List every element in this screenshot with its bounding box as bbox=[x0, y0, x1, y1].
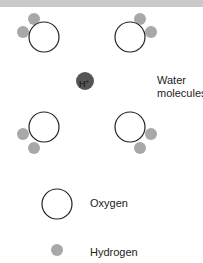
ion-label: H+ bbox=[79, 75, 89, 91]
water-molecules-label: Water molecules bbox=[157, 74, 203, 100]
hydrogen-atom bbox=[17, 128, 29, 140]
hydrogen-atom bbox=[145, 128, 157, 140]
water-molecule-bottom-right bbox=[115, 112, 157, 154]
hydrogen-atom bbox=[28, 142, 40, 154]
legend-hydrogen-label: Hydrogen bbox=[90, 246, 138, 259]
water-molecule-bottom-left bbox=[17, 112, 59, 154]
water-label-line2: molecules bbox=[157, 87, 203, 100]
oxygen-atom bbox=[115, 112, 145, 142]
water-molecule-top-right bbox=[115, 13, 157, 52]
legend-hydrogen-icon bbox=[51, 244, 63, 256]
hydrogen-atom bbox=[134, 142, 146, 154]
water-label-line1: Water bbox=[157, 74, 203, 87]
water-molecule-top-left bbox=[17, 13, 59, 52]
legend-oxygen-icon bbox=[42, 189, 72, 219]
oxygen-atom bbox=[29, 22, 59, 52]
legend-oxygen-label: Oxygen bbox=[90, 197, 128, 210]
diagram-canvas bbox=[0, 0, 203, 263]
oxygen-atom bbox=[115, 22, 145, 52]
hydrogen-atom bbox=[145, 26, 157, 38]
hydrogen-atom bbox=[17, 26, 29, 38]
oxygen-atom bbox=[29, 112, 59, 142]
ion-charge: + bbox=[86, 78, 90, 84]
